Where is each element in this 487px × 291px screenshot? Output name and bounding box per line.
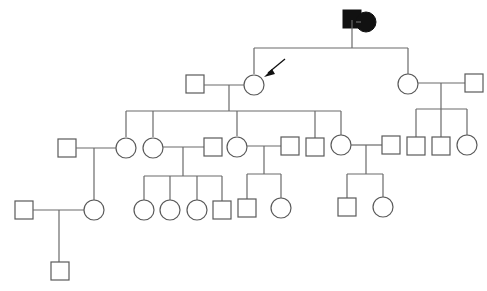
generation-1 [254,10,408,74]
male-III-11 [432,137,450,155]
generation-3 [58,135,477,208]
female-IV-8 [271,198,291,218]
male-IV-6 [213,201,231,219]
male-III-9 [382,136,400,154]
female-III-5 [227,137,247,157]
female-II-3 [398,74,418,94]
female-IV-4 [160,200,180,220]
male-III-1 [58,139,76,157]
female-IV-5 [187,200,207,220]
male-III-10 [407,137,425,155]
female-IV-10 [373,197,393,217]
male-III-4 [204,138,222,156]
generation-4 [15,174,393,262]
generation-2 [186,59,483,137]
generation-5 [51,262,69,280]
male-II-1 [186,75,204,93]
proband-arrow-icon [264,59,285,77]
female-III-2 [116,138,136,158]
male-V-1 [51,262,69,280]
male-IV-1 [15,201,33,219]
male-II-4 [465,74,483,92]
male-III-6 [281,137,299,155]
male-IV-9 [338,198,356,216]
female-III-12 [457,135,477,155]
female-IV-2 [84,200,104,220]
female-IV-3 [134,200,154,220]
female-III-3 [143,138,163,158]
male-III-7 [306,138,324,156]
female-III-8 [331,135,351,155]
male-IV-7 [238,199,256,217]
pedigree-chart [0,0,487,291]
proband-female-II-2 [244,75,264,95]
